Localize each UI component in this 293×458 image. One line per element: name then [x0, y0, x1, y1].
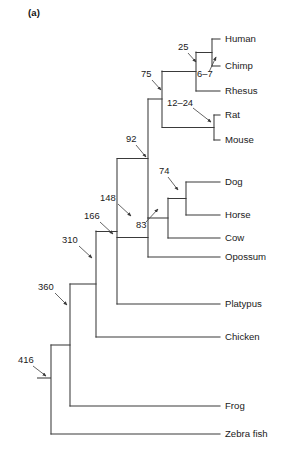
leader-line-label-25 [188, 53, 196, 62]
tip-label-chimp: Chimp [225, 60, 253, 71]
tip-label-chicken: Chicken [225, 331, 260, 342]
leader-line-label-92 [136, 145, 146, 157]
tip-label-human: Human [225, 33, 256, 44]
leader-line-label-360 [55, 293, 67, 305]
node-age-label-25: 25 [178, 41, 188, 52]
node-age-label-74: 74 [159, 165, 169, 176]
node-age-label-166: 166 [84, 210, 100, 221]
tip-label-rat: Rat [225, 109, 240, 120]
node-label-layer: 256–77512–24927414883166310360416 [18, 41, 213, 365]
tip-label-mouse: Mouse [225, 134, 254, 145]
node-age-label-6-7: 6–7 [197, 68, 213, 79]
node-age-label-416: 416 [18, 354, 34, 365]
node-age-label-92: 92 [126, 133, 136, 144]
tip-label-dog: Dog [225, 176, 243, 187]
tip-label-rhesus: Rhesus [225, 85, 258, 96]
node-age-label-360: 360 [38, 281, 54, 292]
leader-line-label-75 [152, 80, 161, 90]
node-age-label-75: 75 [141, 68, 151, 79]
leader-line-label-74 [168, 177, 178, 190]
tip-label-zebrafish: Zebra fish [225, 428, 268, 439]
leader-line-label-166 [100, 222, 113, 234]
tip-label-frog: Frog [225, 400, 245, 411]
node-age-label-310: 310 [62, 234, 78, 245]
tip-label-opossum: Opossum [225, 251, 266, 262]
tree-canvas: HumanChimpRhesusRatMouseDogHorseCowOposs… [0, 0, 293, 458]
node-age-label-83: 83 [136, 219, 146, 230]
node-age-label-148: 148 [100, 192, 116, 203]
leader-line-label-416 [33, 366, 46, 376]
tip-label-layer: HumanChimpRhesusRatMouseDogHorseCowOposs… [225, 33, 268, 439]
leader-line-label-310 [79, 246, 92, 258]
node-age-label-12-24: 12–24 [167, 97, 193, 108]
tip-label-horse: Horse [225, 209, 251, 220]
leader-line-label-148 [118, 204, 131, 216]
tip-label-platypus: Platypus [225, 298, 262, 309]
leader-line-label-12-24 [193, 108, 211, 122]
phylogenetic-tree-figure: (a) HumanChimpRhesusRatMouseDogHorseCowO… [0, 0, 293, 458]
tip-label-cow: Cow [225, 232, 244, 243]
